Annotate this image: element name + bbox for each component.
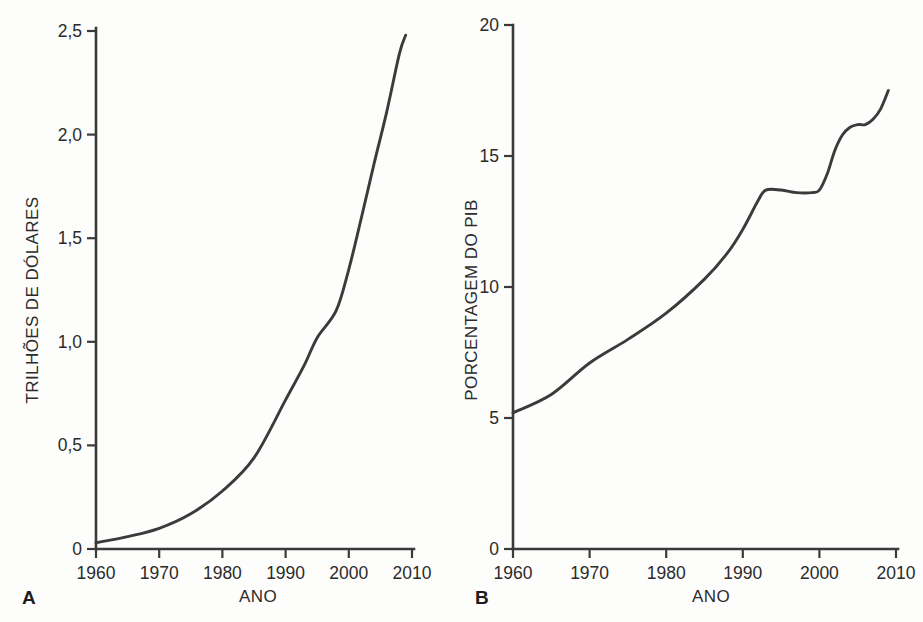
x-tick-label: 1980: [647, 563, 686, 583]
panel-a-y-ticks: 00,51,01,52,02,5: [58, 21, 96, 559]
panel-b-letter: B: [475, 587, 489, 608]
y-tick-label: 5: [489, 408, 499, 428]
panel-a-axes: [96, 28, 414, 549]
panel-b-y-ticks: 05101520: [480, 15, 513, 559]
panel-a-y-axis-title: TRILHÕES DE DÓLARES: [23, 197, 42, 404]
panel-a-data-curve: [96, 35, 406, 543]
x-tick-label: 1970: [570, 563, 609, 583]
x-tick-label: 1970: [140, 563, 179, 583]
x-tick-label: 2000: [329, 563, 368, 583]
panel-b-svg: 05101520 196019701980199020002010 PORCEN…: [461, 0, 923, 622]
panel-a-x-ticks: 196019701980199020002010: [77, 549, 432, 583]
y-tick-label: 2,0: [58, 125, 83, 145]
y-tick-label: 0: [72, 539, 82, 559]
panel-b-data-curve: [513, 91, 888, 413]
panel-b-x-ticks: 196019701980199020002010: [494, 549, 916, 583]
y-tick-label: 1,5: [58, 228, 82, 248]
x-tick-label: 1990: [266, 563, 305, 583]
x-tick-label: 2000: [800, 563, 839, 583]
x-tick-label: 1990: [723, 563, 762, 583]
chart-panel-b: 05101520 196019701980199020002010 PORCEN…: [461, 0, 923, 622]
panel-b-x-axis-title: ANO: [692, 587, 730, 606]
x-tick-label: 2010: [393, 563, 432, 583]
y-tick-label: 0,5: [58, 435, 82, 455]
panel-a-svg: 00,51,01,52,02,5 19601970198019902000201…: [0, 0, 462, 622]
y-tick-label: 2,5: [58, 21, 82, 41]
x-tick-label: 2010: [877, 563, 916, 583]
panel-b-axes: [513, 25, 898, 549]
panel-a-x-axis-title: ANO: [239, 587, 277, 606]
panel-b-y-axis-title: PORCENTAGEM DO PIB: [462, 199, 481, 400]
y-tick-label: 0: [489, 539, 499, 559]
x-tick-label: 1960: [494, 563, 533, 583]
x-tick-label: 1960: [77, 563, 116, 583]
x-tick-label: 1980: [203, 563, 242, 583]
figure-container: 00,51,01,52,02,5 19601970198019902000201…: [0, 0, 923, 622]
y-tick-label: 1,0: [58, 332, 83, 352]
chart-panel-a: 00,51,01,52,02,5 19601970198019902000201…: [0, 0, 462, 622]
y-tick-label: 20: [480, 15, 500, 35]
panel-a-letter: A: [22, 587, 36, 608]
y-tick-label: 10: [480, 277, 500, 297]
y-tick-label: 15: [480, 146, 499, 166]
